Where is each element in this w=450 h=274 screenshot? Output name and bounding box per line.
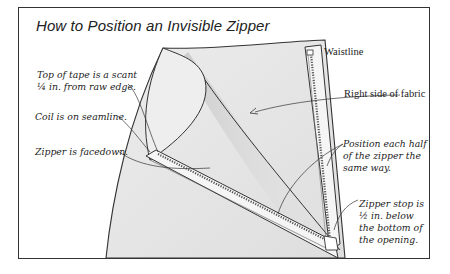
label-top-of-tape: Top of tape is a scant ¼ in. from raw ed…	[37, 69, 137, 93]
label-line: of the zipper the	[343, 150, 427, 162]
zipper-stop	[324, 236, 338, 250]
diagram-title: How to Position an Invisible Zipper	[36, 17, 270, 34]
label-line: same way.	[343, 162, 427, 174]
label-position-each-half: Position each half of the zipper the sam…	[343, 138, 427, 174]
label-facedown: Zipper is facedown.	[35, 146, 128, 158]
label-line: the bottom of	[359, 222, 424, 234]
label-line: Position each half	[343, 138, 427, 150]
label-zipper-stop: Zipper stop is ½ in. below the bottom of…	[359, 198, 424, 246]
label-line: ¼ in. from raw edge.	[37, 81, 137, 93]
label-line: Top of tape is a scant	[37, 69, 137, 81]
label-line: the opening.	[359, 234, 424, 246]
label-line: Zipper stop is	[359, 198, 424, 210]
label-line: ½ in. below	[359, 210, 424, 222]
label-waistline: Waistline	[324, 46, 363, 58]
label-coil: Coil is on seamline.	[35, 111, 127, 123]
label-right-side: Right side of fabric	[344, 88, 425, 100]
